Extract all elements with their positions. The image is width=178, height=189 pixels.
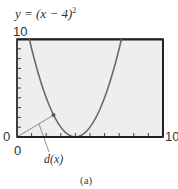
curve-point [52,113,56,117]
distance-label: d(x) [44,152,63,167]
figure: y = (x − 4)2 10 0 0 10 [0,0,178,189]
plot-frame [17,39,163,137]
plot-area [0,0,178,189]
figure-caption: (a) [80,174,92,186]
